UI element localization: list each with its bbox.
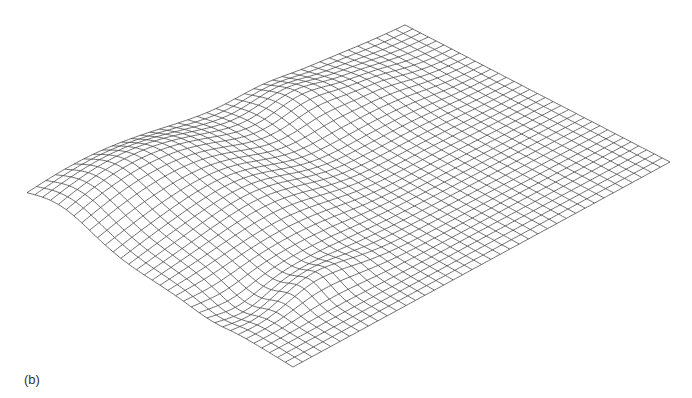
wireframe-surface-plot: [0, 0, 692, 398]
mesh-line-u: [244, 94, 510, 249]
mesh-line-v: [254, 142, 631, 343]
mesh-line-u: [178, 123, 444, 285]
mesh-line-v: [184, 106, 561, 302]
mesh-line-v: [58, 41, 436, 205]
mesh-line-u: [55, 175, 321, 352]
mesh-line-v: [82, 53, 460, 223]
mesh-line-v: [51, 37, 429, 200]
mesh-line-v: [66, 45, 444, 210]
mesh-line-v: [230, 130, 607, 331]
mesh-line-u: [169, 126, 435, 290]
mesh-line-v: [277, 154, 654, 358]
mesh-line-v: [176, 102, 553, 296]
mesh-line-u: [37, 187, 303, 362]
mesh-line-u: [140, 135, 406, 305]
mesh-line-u: [225, 104, 491, 260]
mesh-line-v: [35, 29, 413, 195]
mesh-line-u: [27, 193, 293, 367]
panel-label: (b): [24, 372, 40, 387]
surface-mesh: [27, 25, 670, 367]
mesh-line-v: [270, 150, 647, 353]
